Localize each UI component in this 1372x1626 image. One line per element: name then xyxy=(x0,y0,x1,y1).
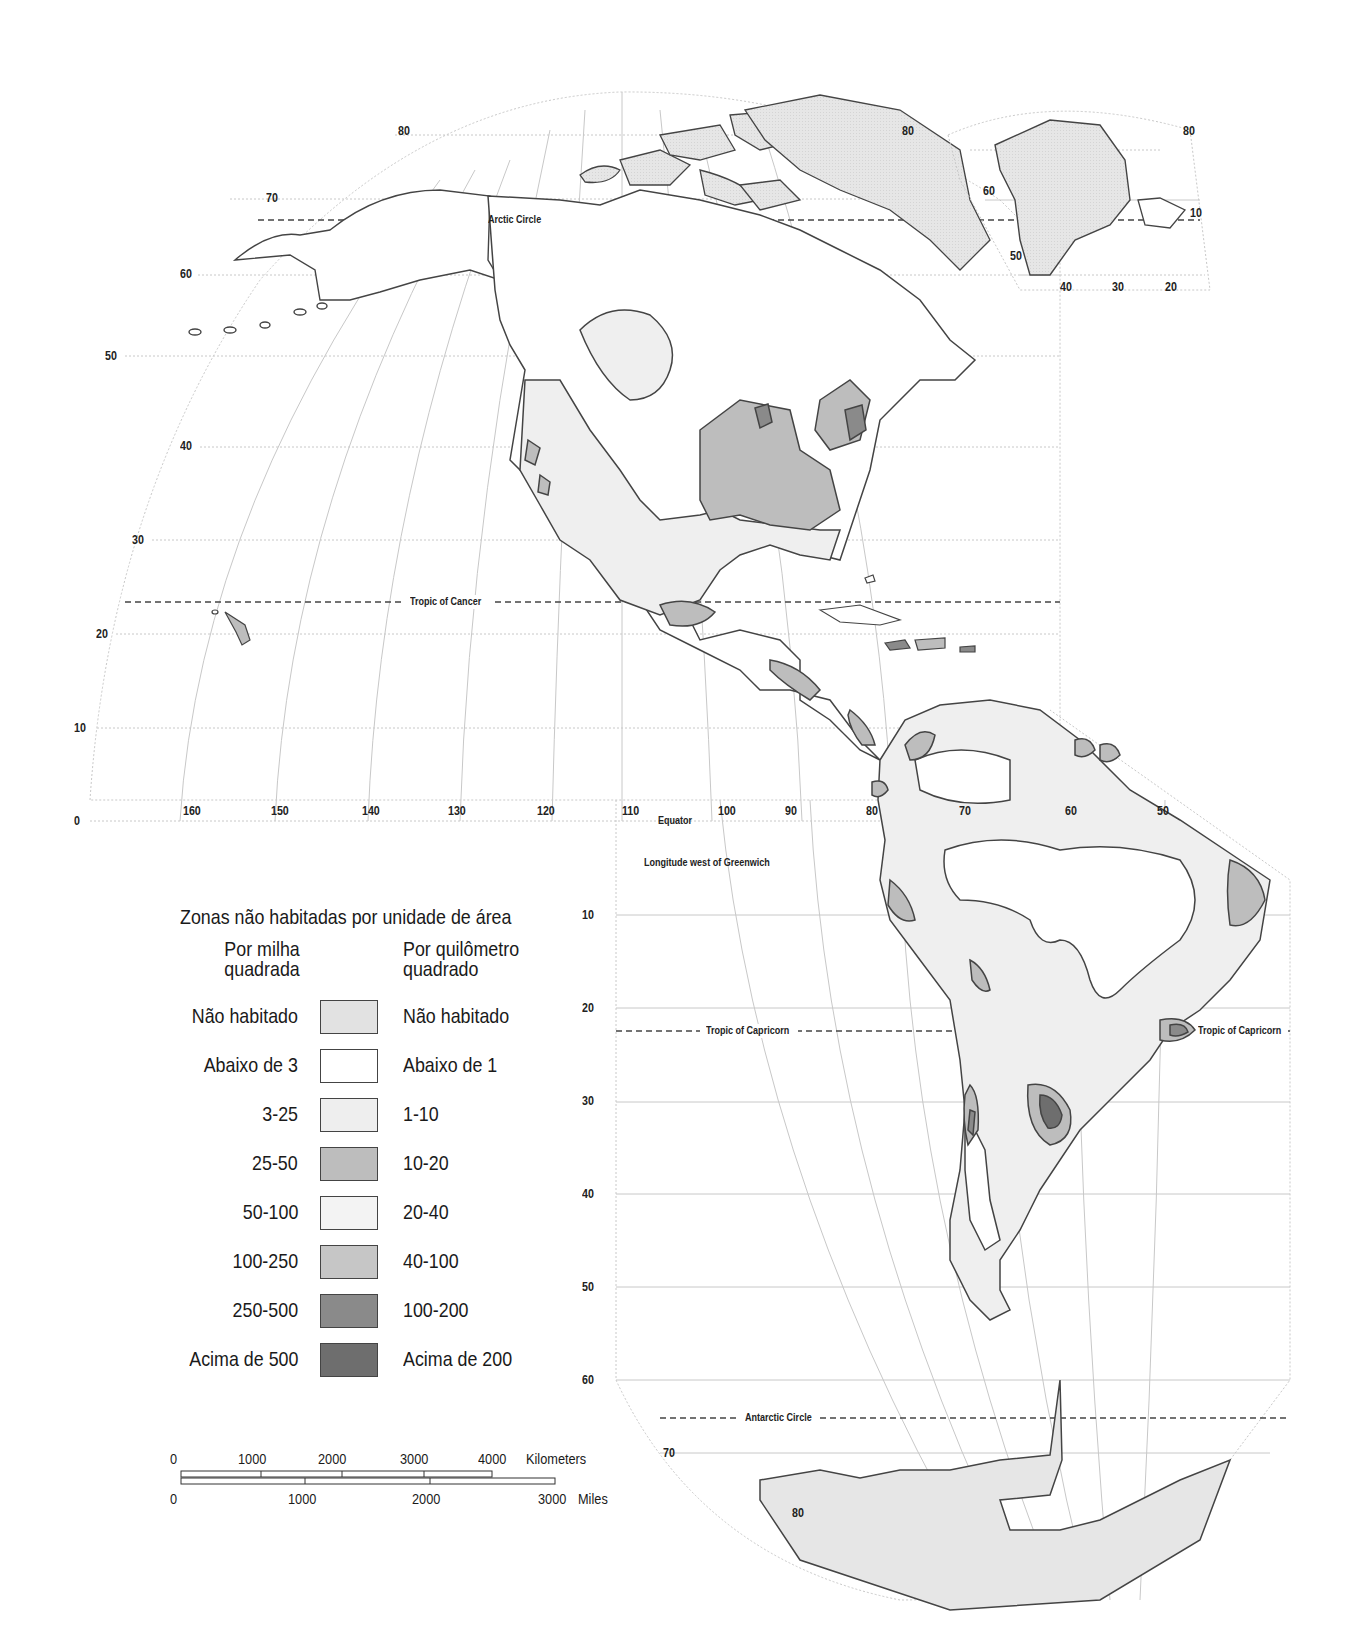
legend-header-per-sq-mile: Por milha quadrada xyxy=(225,939,300,979)
lat-label-0: 0 xyxy=(74,813,80,828)
scale-km-4000: 4000 xyxy=(478,1450,506,1467)
scale-mi-1000: 1000 xyxy=(288,1490,316,1507)
greenland-lat-60: 60 xyxy=(983,183,995,198)
legend-header-per-sq-km: Por quilômetro quadrado xyxy=(403,939,519,979)
legend-header-left-line2: quadrada xyxy=(225,959,300,979)
scale-km-2000: 2000 xyxy=(318,1450,346,1467)
greenland-lon-10: 10 xyxy=(1190,205,1202,220)
legend-header-left-line1: Por milha xyxy=(225,939,300,959)
legend-row: 3-25 1-10 xyxy=(160,1098,600,1132)
scale-mi-0: 0 xyxy=(170,1490,177,1507)
lon-label-50: 50 xyxy=(1157,803,1169,818)
greenland-lon-30: 30 xyxy=(1112,279,1124,294)
legend-swatch xyxy=(320,1000,378,1034)
lat-label-40: 40 xyxy=(180,438,192,453)
legend-title: Zonas não habitadas por unidade de área xyxy=(180,905,511,929)
lon-label-100: 100 xyxy=(718,803,736,818)
greenland-inset xyxy=(948,111,1210,290)
legend-km-value: 1-10 xyxy=(403,1102,439,1126)
legend-km-value: 20-40 xyxy=(403,1200,449,1224)
legend-km-value: Não habitado xyxy=(403,1004,509,1028)
legend-swatch xyxy=(320,1343,378,1377)
greenland-lon-20: 20 xyxy=(1165,279,1177,294)
tropic-of-capricorn-label-right: Tropic of Capricorn xyxy=(1198,1024,1281,1036)
scale-km-unit: Kilometers xyxy=(526,1450,586,1467)
arctic-circle-label: Arctic Circle xyxy=(488,213,541,225)
lon-label-130: 130 xyxy=(448,803,466,818)
legend-row: 100-250 40-100 xyxy=(160,1245,600,1279)
legend-row: Não habitado Não habitado xyxy=(160,1000,600,1034)
legend-km-value: 10-20 xyxy=(403,1151,449,1175)
legend-km-value: Acima de 200 xyxy=(403,1347,512,1371)
greenland-lon-40: 40 xyxy=(1060,279,1072,294)
scale-mi-unit: Miles xyxy=(578,1490,608,1507)
lat-label-s10: 10 xyxy=(582,907,594,922)
lat-label-20: 20 xyxy=(96,626,108,641)
legend-row: 250-500 100-200 xyxy=(160,1294,600,1328)
alaska xyxy=(189,190,500,335)
legend-km-value: Abaixo de 1 xyxy=(403,1053,497,1077)
lat-label-60: 60 xyxy=(180,266,192,281)
legend-mile-value: 3-25 xyxy=(262,1102,298,1126)
legend-mile-value: Acima de 500 xyxy=(189,1347,298,1371)
legend-mile-value: 250-500 xyxy=(232,1298,298,1322)
legend-swatch xyxy=(320,1049,378,1083)
scale-bar: 0 1000 2000 3000 4000 Kilometers 0 1000 … xyxy=(160,1450,620,1510)
scale-mi-2000: 2000 xyxy=(412,1490,440,1507)
lon-label-110: 110 xyxy=(622,803,639,818)
lat-label-80-right: 80 xyxy=(902,123,914,138)
legend-km-value: 40-100 xyxy=(403,1249,459,1273)
legend-mile-value: 100-250 xyxy=(232,1249,298,1273)
greenland-lat-50: 50 xyxy=(1010,248,1022,263)
scale-km-0: 0 xyxy=(170,1450,177,1467)
lon-label-120: 120 xyxy=(537,803,555,818)
lat-label-80-left: 80 xyxy=(398,123,410,138)
legend-header-right-line1: Por quilômetro xyxy=(403,939,519,959)
lat-label-s80: 80 xyxy=(792,1505,804,1520)
legend-mile-value: Abaixo de 3 xyxy=(204,1053,298,1077)
lat-label-s50: 50 xyxy=(582,1279,594,1294)
lon-label-150: 150 xyxy=(271,803,289,818)
legend-swatch xyxy=(320,1245,378,1279)
lon-label-140: 140 xyxy=(362,803,380,818)
scale-km-3000: 3000 xyxy=(400,1450,428,1467)
lon-label-70: 70 xyxy=(959,803,971,818)
lon-label-60: 60 xyxy=(1065,803,1077,818)
legend-mile-value: Não habitado xyxy=(192,1004,298,1028)
legend-swatch xyxy=(320,1196,378,1230)
greenland-lat-80: 80 xyxy=(1183,123,1195,138)
legend-row: Acima de 500 Acima de 200 xyxy=(160,1343,600,1377)
legend-mile-value: 25-50 xyxy=(252,1151,298,1175)
legend-swatch xyxy=(320,1294,378,1328)
legend-row: 25-50 10-20 xyxy=(160,1147,600,1181)
lat-label-50: 50 xyxy=(105,348,117,363)
tropic-of-cancer-label: Tropic of Cancer xyxy=(410,595,481,607)
lat-label-30: 30 xyxy=(132,532,144,547)
legend-row: Abaixo de 3 Abaixo de 1 xyxy=(160,1049,600,1083)
legend-swatch xyxy=(320,1147,378,1181)
scale-mi-3000: 3000 xyxy=(538,1490,566,1507)
longitude-note: Longitude west of Greenwich xyxy=(644,856,770,868)
legend-mile-value: 50-100 xyxy=(242,1200,298,1224)
scale-bars xyxy=(180,1470,560,1486)
caribbean xyxy=(212,575,975,652)
south-america-land xyxy=(760,700,1270,1610)
legend-km-value: 100-200 xyxy=(403,1298,469,1322)
legend-row: 50-100 20-40 xyxy=(160,1196,600,1230)
equator-label: Equator xyxy=(658,814,692,826)
lat-label-70: 70 xyxy=(266,190,278,205)
scale-km-1000: 1000 xyxy=(238,1450,266,1467)
lat-label-10: 10 xyxy=(74,720,86,735)
lat-label-s70: 70 xyxy=(663,1445,675,1460)
lon-label-160: 160 xyxy=(183,803,201,818)
lon-label-90: 90 xyxy=(785,803,797,818)
antarctic-circle-label: Antarctic Circle xyxy=(745,1411,812,1423)
legend-swatch xyxy=(320,1098,378,1132)
north-america-land xyxy=(488,190,975,760)
legend-header-right-line2: quadrado xyxy=(403,959,519,979)
tropic-of-capricorn-label-left: Tropic of Capricorn xyxy=(706,1024,789,1036)
lon-label-80: 80 xyxy=(866,803,878,818)
